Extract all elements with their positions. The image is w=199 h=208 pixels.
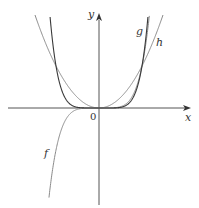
x-axis-label: x: [185, 112, 191, 123]
function-graph: [0, 0, 199, 208]
curve-g-label: g: [136, 26, 143, 37]
curve-f-label: f: [44, 148, 48, 159]
y-axis-arrow-icon: [96, 13, 102, 21]
y-axis-label: y: [88, 9, 94, 20]
curve-h-label: h: [156, 37, 163, 48]
origin-label: 0: [90, 112, 96, 122]
